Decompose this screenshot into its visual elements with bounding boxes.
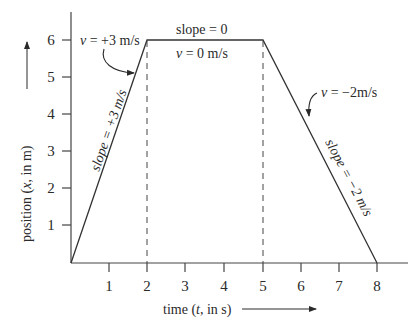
x-tick-labels: 1 2 3 4 5 6 7 8 <box>105 278 381 294</box>
annotation-v-zero: v = 0 m/s <box>176 46 228 61</box>
svg-text:3: 3 <box>47 143 55 159</box>
svg-text:6: 6 <box>297 278 305 294</box>
y-tick-labels: 1 2 3 4 5 6 <box>47 32 55 233</box>
svg-text:4: 4 <box>220 278 228 294</box>
x-axis-label: time (t, in s) <box>163 302 232 318</box>
svg-text:2: 2 <box>47 180 55 196</box>
annotation-slope-plus3: slope = +3 m/s <box>88 87 130 173</box>
svg-text:8: 8 <box>373 278 381 294</box>
svg-text:5: 5 <box>259 278 267 294</box>
svg-text:6: 6 <box>47 32 55 48</box>
position-time-chart: 1 2 3 4 5 6 1 2 3 4 5 6 7 8 v = +3 m/s s… <box>0 0 418 331</box>
y-ticks <box>62 40 71 225</box>
svg-text:1: 1 <box>105 278 113 294</box>
annotation-arrow-v-plus3 <box>103 49 134 73</box>
annotation-slope-zero: slope = 0 <box>176 22 227 37</box>
annotation-v-plus3: v = +3 m/s <box>80 33 140 48</box>
svg-text:7: 7 <box>335 278 343 294</box>
x-ticks <box>109 263 377 272</box>
svg-text:4: 4 <box>47 106 55 122</box>
annotation-v-minus2: v = −2m/s <box>321 85 377 100</box>
svg-text:2: 2 <box>143 278 151 294</box>
annotation-arrow-v-minus2 <box>309 93 317 116</box>
svg-text:1: 1 <box>47 217 55 233</box>
y-axis-label: position (x, in m) <box>19 145 35 242</box>
svg-text:5: 5 <box>47 69 55 85</box>
svg-text:3: 3 <box>181 278 189 294</box>
annotation-slope-minus2: slope = −2 m/s <box>322 136 376 219</box>
